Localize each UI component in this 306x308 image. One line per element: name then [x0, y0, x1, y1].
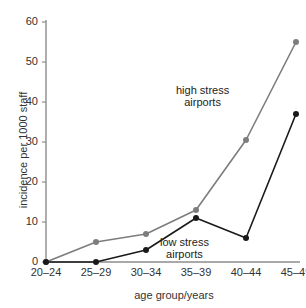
series-label-low-stress-line2: airports	[160, 248, 209, 260]
data-point-marker	[293, 111, 299, 117]
line-chart-plot	[0, 0, 306, 308]
data-point-marker	[293, 39, 299, 45]
data-point-marker	[93, 239, 99, 245]
chart-axes	[46, 20, 300, 262]
data-point-marker	[43, 259, 49, 265]
x-axis-tick-label: 40–44	[220, 266, 272, 278]
data-point-marker	[143, 231, 149, 237]
series-label-high-stress: high stress airports	[176, 84, 229, 108]
series-line	[46, 42, 296, 262]
data-point-marker	[93, 259, 99, 265]
data-point-marker	[143, 247, 149, 253]
x-axis-tick-label: 45–49	[270, 266, 306, 278]
series-markers-group	[43, 39, 299, 265]
series-lines-group	[46, 42, 296, 262]
data-point-marker	[193, 215, 199, 221]
data-point-marker	[193, 207, 199, 213]
data-point-marker	[243, 235, 249, 241]
series-label-high-stress-line1: high stress	[176, 84, 229, 96]
x-axis-tick-label: 25–29	[70, 266, 122, 278]
x-axis-tick-label: 35–39	[170, 266, 222, 278]
data-point-marker	[243, 137, 249, 143]
series-label-high-stress-line2: airports	[176, 96, 229, 108]
series-label-low-stress: low stress airports	[160, 236, 209, 260]
chart-container: 0102030405060 20–2425–2930–3435–3940–444…	[0, 0, 306, 308]
series-label-low-stress-line1: low stress	[160, 236, 209, 248]
y-axis-title: incidence per 1000 staff	[17, 60, 29, 240]
x-axis-tick-label: 30–34	[120, 266, 172, 278]
x-axis-title: age group/years	[45, 289, 303, 301]
x-axis-tick-label: 20–24	[20, 266, 72, 278]
y-axis-tick-label: 60	[8, 15, 38, 27]
